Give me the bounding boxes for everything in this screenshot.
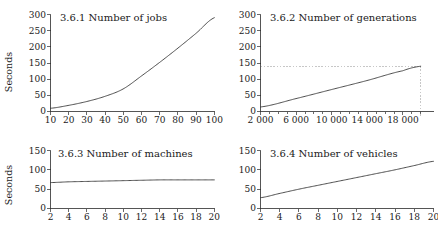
x-tick-label: 16 [172, 212, 184, 222]
y-tick-label: 300 [29, 10, 46, 20]
y-tick-label: 100 [29, 165, 46, 175]
chart-panel-jobs: Seconds 0 50 100 150 200 250 300 [0, 4, 219, 124]
axis-lines [261, 15, 434, 112]
y-tick-label: 100 [29, 74, 46, 84]
x-tick-label: 4 [66, 212, 72, 222]
y-tick-marks [47, 15, 51, 112]
chart-svg-machines: Seconds 0 50 100 150 [0, 140, 219, 228]
chart-svg-generations: 0 50 100 150 200 250 300 [216, 4, 438, 124]
x-tick-label: 6 [84, 212, 90, 222]
x-tick-label: 10 [45, 115, 57, 125]
series-line [51, 180, 215, 183]
x-tick-marks [261, 209, 434, 213]
chart-panel-machines: Seconds 0 50 100 150 [0, 140, 219, 228]
x-tick-label: 14 000 [352, 115, 384, 125]
chart-svg-jobs: Seconds 0 50 100 150 200 250 300 [0, 4, 219, 124]
y-tick-label: 50 [245, 90, 257, 100]
panel-title: 3.6.4 Number of vehicles [270, 148, 398, 159]
y-tick-marks [257, 15, 261, 112]
y-tick-label: 150 [239, 146, 256, 156]
y-tick-label: 200 [29, 42, 46, 52]
y-tick-label: 0 [40, 203, 46, 213]
chart-panel-vehicles: 0 50 100 150 [216, 140, 438, 228]
x-tick-label: 14 [154, 212, 166, 222]
x-tick-label: 20 [428, 212, 438, 222]
x-tick-label: 18 000 [387, 115, 419, 125]
x-tick-label: 18 [408, 212, 420, 222]
y-tick-label: 100 [239, 165, 256, 175]
panel-title: 3.6.2 Number of generations [270, 12, 417, 23]
x-tick-label: 40 [99, 115, 111, 125]
x-tick-label: 6 [296, 212, 302, 222]
x-tick-label: 2 000 [248, 115, 274, 125]
y-tick-label: 50 [35, 184, 47, 194]
x-tick-label: 12 [136, 212, 147, 222]
axis-lines [51, 15, 215, 112]
x-tick-label: 14 [370, 212, 382, 222]
x-tick-label: 6 000 [283, 115, 309, 125]
series-line [51, 18, 215, 109]
x-tick-label: 12 [351, 212, 362, 222]
y-tick-label: 250 [29, 26, 46, 36]
y-tick-label: 0 [250, 203, 256, 213]
y-tick-label: 50 [245, 184, 257, 194]
x-tick-label: 8 [315, 212, 321, 222]
figure-canvas: Seconds 0 50 100 150 200 250 300 [0, 0, 438, 228]
x-tick-label: 20 [63, 115, 75, 125]
y-axis-label: Seconds [3, 52, 14, 92]
x-tick-label: 16 [389, 212, 401, 222]
panel-title: 3.6.3 Number of machines [58, 148, 193, 159]
x-tick-label: 4 [277, 212, 283, 222]
y-tick-label: 150 [29, 58, 46, 68]
x-tick-label: 10 [332, 212, 344, 222]
x-tick-label: 70 [154, 115, 166, 125]
chart-svg-vehicles: 0 50 100 150 [216, 140, 438, 228]
y-tick-marks [47, 151, 51, 209]
x-tick-label: 90 [190, 115, 202, 125]
x-tick-label: 80 [172, 115, 184, 125]
y-tick-label: 150 [29, 146, 46, 156]
series-line [261, 66, 421, 107]
x-tick-label: 10 [118, 212, 130, 222]
y-tick-label: 100 [239, 74, 256, 84]
y-tick-label: 250 [239, 26, 256, 36]
x-tick-label: 50 [118, 115, 130, 125]
y-tick-marks [257, 151, 261, 209]
y-tick-label: 150 [239, 58, 256, 68]
chart-panel-generations: 0 50 100 150 200 250 300 [216, 4, 438, 124]
x-tick-label: 8 [102, 212, 108, 222]
x-tick-label: 30 [81, 115, 93, 125]
x-tick-label: 10 000 [316, 115, 348, 125]
x-tick-label: 60 [136, 115, 148, 125]
x-tick-label: 2 [258, 212, 264, 222]
y-tick-label: 300 [239, 10, 256, 20]
y-tick-label: 200 [239, 42, 256, 52]
panel-title: 3.6.1 Number of jobs [60, 12, 167, 23]
x-tick-label: 2 [48, 212, 54, 222]
x-tick-label: 18 [190, 212, 202, 222]
series-line [261, 161, 434, 197]
y-axis-label: Seconds [3, 165, 14, 205]
y-tick-label: 50 [35, 90, 47, 100]
